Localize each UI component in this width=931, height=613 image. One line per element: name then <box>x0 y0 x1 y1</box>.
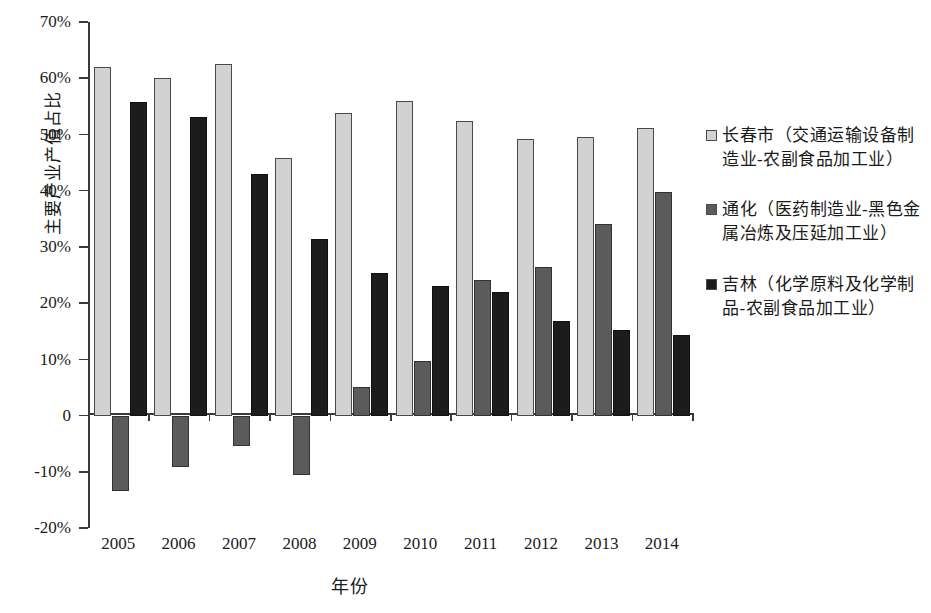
legend-label: 长春市（交通运输设备制造业-农副食品加工业） <box>722 124 924 172</box>
x-tick-label: 2012 <box>524 534 558 554</box>
y-tick: -20% <box>79 527 88 529</box>
plot-area: 70%60%50%40%30%20%10%0-10%-20% 200520062… <box>88 22 692 528</box>
x-axis-label: 年份 <box>0 572 700 598</box>
x-tick <box>148 413 150 421</box>
legend-swatch-icon <box>706 204 717 215</box>
y-tick: 10% <box>79 359 88 361</box>
y-tick-label: 50% <box>40 125 71 142</box>
legend-swatch-icon <box>706 279 717 290</box>
x-tick-label: 2005 <box>101 534 135 554</box>
x-tick <box>692 413 694 421</box>
x-tick-label: 2009 <box>343 534 377 554</box>
x-tick-label: 2014 <box>645 534 679 554</box>
y-tick: 20% <box>79 302 88 304</box>
y-tick-label: -10% <box>34 463 71 480</box>
x-tick <box>511 413 513 421</box>
bar <box>673 335 690 416</box>
bar <box>492 292 509 415</box>
bar <box>517 139 534 416</box>
bar <box>293 416 310 475</box>
legend-item[interactable]: 长春市（交通运输设备制造业-农副食品加工业） <box>706 124 924 172</box>
y-tick: -10% <box>79 471 88 473</box>
y-axis-line <box>88 22 90 528</box>
x-tick-label: 2007 <box>222 534 256 554</box>
bar <box>94 67 111 416</box>
y-tick: 50% <box>79 134 88 136</box>
x-tick <box>450 413 452 421</box>
x-tick <box>269 413 271 421</box>
chart-container: 主要产业产值占比 70%60%50%40%30%20%10%0-10%-20% … <box>0 0 931 613</box>
x-tick <box>632 413 634 421</box>
y-tick-label: 60% <box>40 69 71 86</box>
y-tick-label: 40% <box>40 181 71 198</box>
bar <box>353 387 370 416</box>
chart-legend: 长春市（交通运输设备制造业-农副食品加工业）通化（医药制造业-黑色金属冶炼及压延… <box>706 124 924 347</box>
bar <box>154 78 171 416</box>
x-tick-label: 2013 <box>584 534 618 554</box>
bar <box>251 174 268 415</box>
x-tick <box>209 413 211 421</box>
bar <box>130 102 147 416</box>
bar <box>112 416 129 491</box>
bar <box>637 128 654 416</box>
bar <box>595 224 612 416</box>
legend-label: 吉林（化学原料及化学制品-农副食品加工业） <box>722 273 924 321</box>
x-tick-label: 2008 <box>282 534 316 554</box>
bar <box>655 192 672 416</box>
bar <box>275 158 292 415</box>
x-tick <box>390 413 392 421</box>
bar <box>190 117 207 416</box>
bar <box>535 267 552 416</box>
bar <box>553 321 570 416</box>
bar <box>233 416 250 447</box>
bar <box>613 330 630 415</box>
y-tick: 70% <box>79 21 88 23</box>
bar <box>215 64 232 416</box>
bar <box>396 101 413 415</box>
y-tick: 60% <box>79 77 88 79</box>
bar <box>432 286 449 415</box>
bar <box>371 273 388 416</box>
y-tick-label: 20% <box>40 294 71 311</box>
y-tick-label: 70% <box>40 13 71 30</box>
x-tick-label: 2006 <box>162 534 196 554</box>
x-tick <box>571 413 573 421</box>
x-tick-label: 2011 <box>464 534 497 554</box>
bar <box>311 239 328 416</box>
y-tick-label: 30% <box>40 238 71 255</box>
legend-label: 通化（医药制造业-黑色金属冶炼及压延加工业） <box>722 198 924 246</box>
y-tick: 40% <box>79 190 88 192</box>
x-tick <box>330 413 332 421</box>
bar <box>577 137 594 415</box>
y-tick: 0 <box>79 415 88 417</box>
legend-swatch-icon <box>706 130 717 141</box>
bar <box>456 121 473 416</box>
y-tick-label: -20% <box>34 519 71 536</box>
legend-item[interactable]: 通化（医药制造业-黑色金属冶炼及压延加工业） <box>706 198 924 246</box>
bar <box>414 361 431 416</box>
bar <box>335 113 352 416</box>
y-tick-label: 10% <box>40 350 71 367</box>
bar <box>474 280 491 415</box>
y-tick-label: 0 <box>63 406 72 423</box>
x-tick-label: 2010 <box>403 534 437 554</box>
x-tick <box>88 413 90 421</box>
legend-item[interactable]: 吉林（化学原料及化学制品-农副食品加工业） <box>706 273 924 321</box>
y-tick: 30% <box>79 246 88 248</box>
bar <box>172 416 189 468</box>
